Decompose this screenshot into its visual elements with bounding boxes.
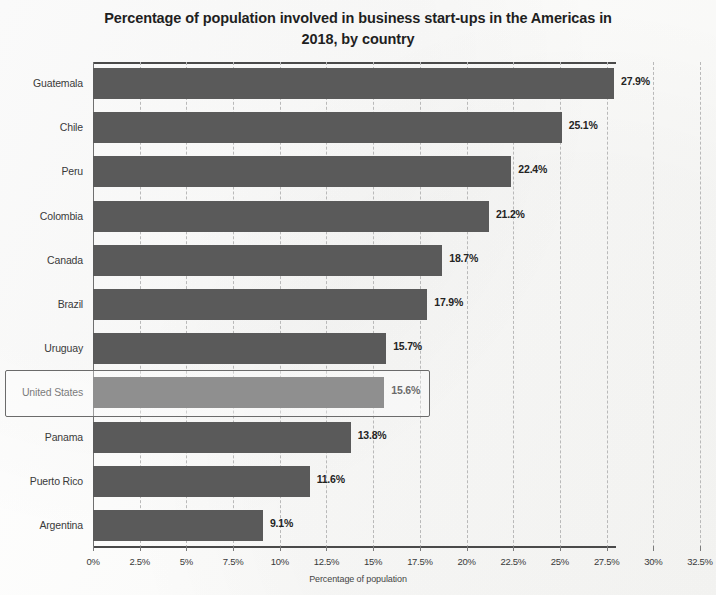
x-tick-label: 7.5%	[223, 556, 243, 567]
tick-mark-22.5%	[513, 546, 514, 551]
tick-mark-0%	[93, 546, 94, 551]
bar-value-label: 21.2%	[496, 208, 525, 220]
category-label-uruguay: Uruguay	[0, 342, 83, 354]
bar-row[interactable]: 9.1%	[93, 504, 700, 548]
bar-peru[interactable]	[93, 156, 511, 187]
chart-title: Percentage of population involved in bus…	[58, 8, 658, 50]
category-label-peru: Peru	[0, 165, 83, 177]
tick-mark-32.5%	[700, 546, 701, 551]
tick-mark-10%	[280, 546, 281, 551]
x-axis-title: Percentage of population	[0, 574, 716, 584]
bar-uruguay[interactable]	[93, 333, 386, 364]
bar-row[interactable]: 22.4%	[93, 150, 700, 194]
tick-mark-25%	[560, 546, 561, 551]
x-tick-label: 20%	[457, 556, 475, 567]
bar-value-label: 25.1%	[569, 119, 598, 131]
x-tick-label: 30%	[644, 556, 662, 567]
bar-value-label: 15.6%	[391, 384, 420, 396]
chart-page: Percentage of population involved in bus…	[0, 0, 716, 595]
bar-row[interactable]: 13.8%	[93, 416, 700, 460]
x-tick-label: 17.5%	[407, 556, 432, 567]
tick-mark-2.5%	[140, 546, 141, 551]
category-label-guatemala: Guatemala	[0, 77, 83, 89]
bar-guatemala[interactable]	[93, 68, 614, 99]
tick-mark-5%	[186, 546, 187, 551]
bar-row[interactable]: 21.2%	[93, 195, 700, 239]
bar-row[interactable]: 15.7%	[93, 327, 700, 371]
bar-chile[interactable]	[93, 112, 562, 143]
bar-value-label: 17.9%	[434, 296, 463, 308]
bar-row[interactable]: 11.6%	[93, 460, 700, 504]
tick-mark-15%	[373, 546, 374, 551]
bar-row[interactable]: 27.9%	[93, 62, 700, 106]
chart-title-line-1: Percentage of population involved in bus…	[58, 8, 658, 29]
bar-value-label: 18.7%	[449, 252, 478, 264]
tick-mark-7.5%	[233, 546, 234, 551]
tick-mark-30%	[653, 546, 654, 551]
x-tick-label: 10%	[271, 556, 289, 567]
bar-value-label: 22.4%	[518, 163, 547, 175]
bar-value-label: 15.7%	[393, 340, 422, 352]
bar-row[interactable]: 18.7%	[93, 239, 700, 283]
bar-row[interactable]: 17.9%	[93, 283, 700, 327]
category-label-united-states: United States	[0, 386, 83, 398]
tick-mark-27.5%	[607, 546, 608, 551]
x-tick-label: 22.5%	[501, 556, 526, 567]
category-label-argentina: Argentina	[0, 519, 83, 531]
bar-value-label: 11.6%	[317, 473, 345, 485]
bar-value-label: 13.8%	[358, 429, 387, 441]
plot-area: 27.9%25.1%22.4%21.2%18.7%17.9%15.7%15.6%…	[93, 62, 700, 548]
bar-canada[interactable]	[93, 245, 442, 276]
x-tick-label: 12.5%	[314, 556, 339, 567]
bar-brazil[interactable]	[93, 289, 427, 320]
bar-value-label: 27.9%	[621, 75, 650, 87]
tick-mark-17.5%	[420, 546, 421, 551]
x-tick-label: 2.5%	[129, 556, 149, 567]
category-label-brazil: Brazil	[0, 298, 83, 310]
x-tick-label: 27.5%	[594, 556, 619, 567]
bar-row[interactable]: 25.1%	[93, 106, 700, 150]
bar-value-label: 9.1%	[270, 517, 293, 529]
bar-colombia[interactable]	[93, 201, 489, 232]
x-tick-label: 5%	[180, 556, 193, 567]
category-label-colombia: Colombia	[0, 210, 83, 222]
bar-puerto-rico[interactable]	[93, 466, 310, 497]
gridline-32.5%	[700, 62, 701, 548]
x-tick-label: 0%	[86, 556, 99, 567]
tick-mark-12.5%	[326, 546, 327, 551]
chart-title-line-2: 2018, by country	[58, 29, 658, 50]
category-label-chile: Chile	[0, 121, 83, 133]
bar-row[interactable]: 15.6%	[93, 371, 700, 415]
category-label-canada: Canada	[0, 254, 83, 266]
x-tick-label: 32.5%	[687, 556, 712, 567]
category-label-puerto-rico: Puerto Rico	[0, 475, 83, 487]
bar-argentina[interactable]	[93, 510, 263, 541]
category-label-panama: Panama	[0, 431, 83, 443]
x-tick-label: 15%	[364, 556, 382, 567]
x-tick-label: 25%	[551, 556, 569, 567]
bar-united-states[interactable]	[93, 377, 384, 408]
bar-panama[interactable]	[93, 422, 351, 453]
tick-mark-20%	[467, 546, 468, 551]
